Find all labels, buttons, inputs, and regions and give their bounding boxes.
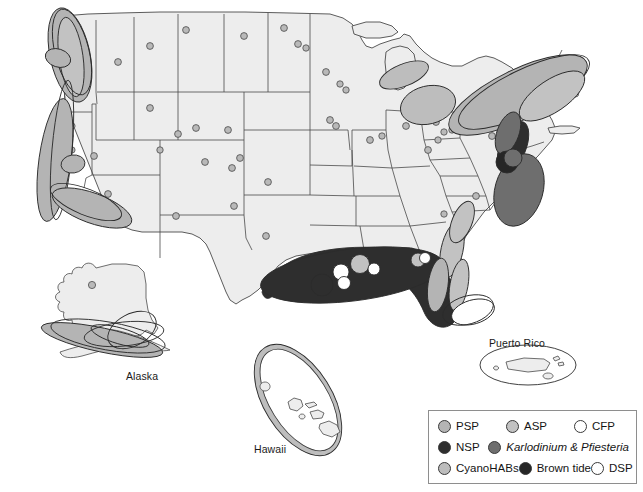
hab-circle-cfp-florida-west — [420, 253, 431, 264]
legend-label-psp: PSP — [456, 421, 479, 433]
legend-row-2: NSP Karlodinium & Pfiesteria — [438, 437, 629, 458]
legend-entry-dsp: DSP — [591, 462, 633, 475]
hab-legend: PSP ASP CFP NSP Karlodinium & Pfiesteria — [428, 410, 637, 484]
legend-row-3: CyanoHABs Brown tide DSP — [438, 458, 629, 479]
inset-label-hawaii: Hawaii — [254, 443, 286, 455]
legend-label-nsp: NSP — [456, 442, 480, 454]
legend-label-dsp: DSP — [609, 463, 633, 475]
legend-swatch-karlodinium-pfiesteria-icon — [488, 441, 501, 454]
legend-entry-psp: PSP — [438, 420, 506, 433]
legend-label-brown-tide: Brown tide — [537, 463, 591, 475]
legend-swatch-nsp-icon — [438, 441, 451, 454]
legend-entry-karlodinium-pfiesteria: Karlodinium & Pfiesteria — [488, 441, 629, 454]
legend-label-karlodinium-pfiesteria: Karlodinium & Pfiesteria — [506, 442, 629, 454]
legend-row-1: PSP ASP CFP — [438, 416, 629, 437]
legend-swatch-cfp-icon — [574, 420, 587, 433]
legend-entry-cfp: CFP — [574, 420, 615, 433]
inset-label-puerto-rico: Puerto Rico — [489, 337, 545, 349]
hab-circle-kp-delaware-bay — [504, 149, 522, 167]
legend-entry-nsp: NSP — [438, 441, 488, 454]
hab-circle-cfp-panhandle — [368, 263, 380, 275]
hab-circle-cfp-mississippi — [338, 277, 351, 290]
alaska-inset-group — [39, 263, 170, 365]
inset-label-alaska: Alaska — [126, 370, 158, 382]
legend-entry-brown-tide: Brown tide — [519, 462, 591, 475]
legend-label-cyanohabs: CyanoHABs — [456, 463, 519, 475]
legend-swatch-asp-icon — [506, 420, 519, 433]
hab-circle-asp-alabama — [351, 255, 370, 274]
legend-entry-asp: ASP — [506, 420, 574, 433]
legend-swatch-psp-icon — [438, 420, 451, 433]
legend-label-cfp: CFP — [592, 421, 615, 433]
legend-swatch-dsp-icon — [591, 462, 604, 475]
legend-swatch-brown-tide-icon — [519, 462, 532, 475]
legend-label-asp: ASP — [524, 421, 547, 433]
puerto-rico-inset-group — [480, 345, 576, 385]
legend-swatch-cyanohabs-icon — [438, 462, 451, 475]
hab-circle-nsp-texas-coast — [311, 274, 333, 296]
hab-distribution-map: Alaska Hawaii Puerto Rico PSP ASP CFP NS… — [0, 0, 643, 492]
legend-entry-cyanohabs: CyanoHABs — [438, 462, 519, 475]
